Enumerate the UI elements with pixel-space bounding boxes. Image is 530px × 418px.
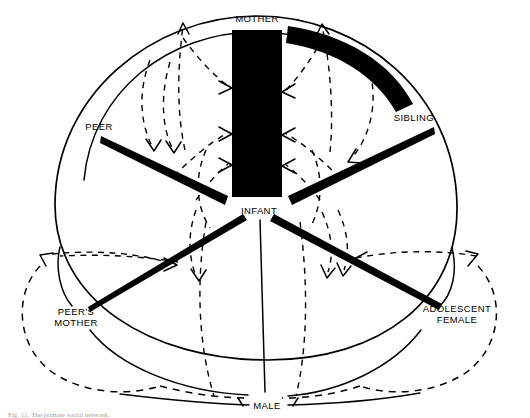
bond-line-infant-male bbox=[260, 220, 265, 392]
influence-arc-infant-male-right bbox=[296, 222, 306, 396]
arrowhead-to-peer-a bbox=[146, 139, 161, 151]
male-baseline-right bbox=[288, 393, 420, 405]
influence-arc-to-sibling bbox=[352, 72, 373, 158]
figure-root: MOTHER SIBLING PEER INFANT PEER'S MOTHER… bbox=[0, 0, 530, 418]
node-label-mother: MOTHER bbox=[235, 13, 279, 24]
arrowhead-right-to-bar-2 bbox=[282, 128, 295, 142]
dashed-lobe-bottom-left bbox=[160, 386, 250, 398]
influence-arc-horizontal-left-b bbox=[52, 252, 172, 264]
bond-wedge-infant-adolescent-female bbox=[270, 214, 442, 310]
arrowhead-horizontal-left bbox=[40, 253, 53, 266]
node-label-peers-mother-line2: MOTHER bbox=[54, 317, 98, 328]
influence-arc-left-to-bar-2 bbox=[174, 133, 228, 176]
male-baseline-left bbox=[120, 394, 249, 405]
node-label-peers-mother-line1: PEER'S bbox=[58, 306, 94, 317]
influence-arc-infant-male-left bbox=[200, 222, 214, 396]
dashed-lobe-right bbox=[360, 266, 496, 392]
dashed-outer-lobes-group bbox=[22, 266, 496, 398]
adolescent-female-lobe bbox=[440, 248, 454, 306]
adolescent-female-lobe-lower bbox=[288, 330, 421, 396]
influence-arc-left-to-bar-1 bbox=[183, 38, 228, 86]
node-label-male: MALE bbox=[253, 400, 280, 411]
arrowhead-to-peers-mother bbox=[191, 269, 206, 281]
node-label-adolescent-female-line1: ADOLESCENT bbox=[423, 303, 491, 314]
influence-arc-peer-to-mother bbox=[179, 26, 185, 150]
bond-wedge-mother-infant bbox=[232, 30, 282, 197]
influence-arc-horizontal-right bbox=[356, 252, 476, 258]
arrowhead-left-to-bar-2 bbox=[219, 127, 232, 141]
arrowhead-right-to-bar-1 bbox=[282, 84, 295, 98]
node-label-infant: INFANT bbox=[241, 205, 277, 216]
peers-mother-lobe-lower bbox=[90, 330, 248, 395]
arrowhead-left-to-bar-1 bbox=[219, 81, 232, 94]
arrowhead-to-sibling bbox=[348, 149, 361, 163]
bond-wedge-infant-peer bbox=[100, 136, 228, 205]
node-label-sibling: SIBLING bbox=[394, 112, 434, 123]
figure-caption: Fig. 11. The primate social network. bbox=[8, 411, 109, 418]
bond-wedge-mother-sibling bbox=[286, 26, 413, 112]
node-label-adolescent-female-line2: FEMALE bbox=[437, 314, 477, 325]
arrowhead-to-peer-b bbox=[166, 141, 181, 153]
bond-wedge-infant-sibling bbox=[288, 127, 435, 205]
dashed-lobe-left bbox=[22, 266, 160, 392]
sociogram-canvas: MOTHER SIBLING PEER INFANT PEER'S MOTHER… bbox=[0, 0, 530, 418]
influence-arc-to-peer-a bbox=[142, 60, 152, 146]
influence-arc-to-peer-b bbox=[163, 62, 172, 148]
arrowhead-horizontal-right bbox=[466, 251, 478, 266]
node-label-peer: PEER bbox=[85, 121, 112, 132]
